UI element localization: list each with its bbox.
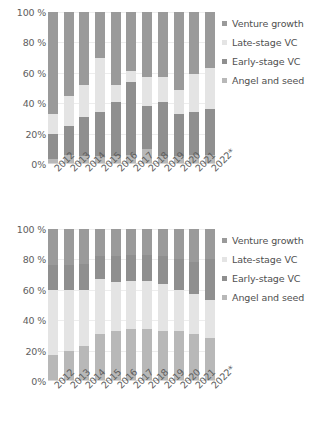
legend-label: Angel and seed	[232, 292, 304, 303]
bar-segment[interactable]	[142, 281, 152, 330]
bar-segment[interactable]	[189, 229, 199, 262]
bar-2017[interactable]	[126, 12, 136, 164]
legend-swatch-icon	[222, 21, 227, 26]
bar-segment[interactable]	[95, 12, 105, 58]
bar-2019[interactable]	[158, 229, 168, 381]
bar-segment[interactable]	[95, 256, 105, 279]
bar-segment[interactable]	[205, 259, 215, 300]
bar-2017[interactable]	[126, 229, 136, 381]
bar-segment[interactable]	[48, 265, 58, 289]
bar-segment[interactable]	[64, 290, 74, 351]
bar-2015[interactable]	[95, 12, 105, 164]
bar-segment[interactable]	[142, 106, 152, 149]
legend-label: Venture growth	[232, 18, 304, 29]
bar-segment[interactable]	[174, 259, 184, 289]
bar-segment[interactable]	[79, 12, 89, 85]
legend-item-late-stage-vc[interactable]: Late-stage VC	[222, 250, 316, 269]
bar-segment[interactable]	[95, 229, 105, 256]
bar-segment[interactable]	[174, 12, 184, 90]
bar-2014[interactable]	[79, 12, 89, 164]
bar-segment[interactable]	[126, 12, 136, 71]
bar-segment[interactable]	[158, 256, 168, 283]
bar-segment[interactable]	[189, 74, 199, 112]
legend-item-angel-and-seed[interactable]: Angel and seed	[222, 71, 316, 90]
bar-segment[interactable]	[174, 90, 184, 114]
bar-segment[interactable]	[64, 229, 74, 265]
bar-2021[interactable]	[189, 229, 199, 381]
bar-2012[interactable]	[48, 12, 58, 164]
bar-segment[interactable]	[79, 290, 89, 346]
bar-2020[interactable]	[174, 229, 184, 381]
bar-segment[interactable]	[142, 229, 152, 255]
bar-segment[interactable]	[142, 77, 152, 106]
legend-label: Angel and seed	[232, 75, 304, 86]
bar-2016[interactable]	[111, 229, 121, 381]
bar-segment[interactable]	[205, 300, 215, 338]
bar-segment[interactable]	[189, 262, 199, 294]
bar-segment[interactable]	[64, 265, 74, 289]
bar-segment[interactable]	[48, 290, 58, 355]
legend-item-late-stage-vc[interactable]: Late-stage VC	[222, 33, 316, 52]
bar-segment[interactable]	[79, 229, 89, 264]
legend-item-venture-growth[interactable]: Venture growth	[222, 231, 316, 250]
bar-2014[interactable]	[79, 229, 89, 381]
bar-segment[interactable]	[95, 279, 105, 334]
bar-2012[interactable]	[48, 229, 58, 381]
bar-segment[interactable]	[158, 12, 168, 77]
bar-segment[interactable]	[142, 12, 152, 77]
bar-segment[interactable]	[205, 68, 215, 109]
bar-segment[interactable]	[205, 12, 215, 68]
bar-segment[interactable]	[158, 102, 168, 157]
bar-segment[interactable]	[126, 82, 136, 155]
bar-segment[interactable]	[174, 290, 184, 331]
chart-page: 0%20%40 %60 %80 %100 % 20122013201420152…	[0, 0, 317, 434]
bar-segment[interactable]	[126, 229, 136, 255]
bar-segment[interactable]	[126, 281, 136, 330]
y-tick-label: 0%	[8, 159, 46, 170]
legend-swatch-icon	[222, 276, 227, 281]
bar-segment[interactable]	[48, 114, 58, 134]
bar-segment[interactable]	[79, 264, 89, 290]
bar-segment[interactable]	[48, 12, 58, 114]
bar-segment[interactable]	[48, 134, 58, 160]
bar-segment[interactable]	[111, 85, 121, 102]
bar-segment[interactable]	[79, 85, 89, 117]
bar-2022star[interactable]	[205, 12, 215, 164]
bar-segment[interactable]	[158, 229, 168, 256]
bar-segment[interactable]	[205, 229, 215, 259]
bar-segment[interactable]	[64, 96, 74, 126]
bar-2019[interactable]	[158, 12, 168, 164]
bar-2021[interactable]	[189, 12, 199, 164]
bar-2013[interactable]	[64, 12, 74, 164]
bar-segment[interactable]	[111, 12, 121, 85]
bar-segment[interactable]	[189, 294, 199, 334]
bar-segment[interactable]	[174, 229, 184, 259]
legend-item-early-stage-vc[interactable]: Early-stage VC	[222, 269, 316, 288]
bar-segment[interactable]	[205, 109, 215, 155]
legend-item-venture-growth[interactable]: Venture growth	[222, 14, 316, 33]
bar-segment[interactable]	[126, 71, 136, 82]
bar-segment[interactable]	[111, 229, 121, 256]
legend-item-angel-and-seed[interactable]: Angel and seed	[222, 288, 316, 307]
bar-segment[interactable]	[158, 284, 168, 331]
bar-segment[interactable]	[48, 229, 58, 265]
bar-segment[interactable]	[111, 256, 121, 282]
bar-2013[interactable]	[64, 229, 74, 381]
bar-2016[interactable]	[111, 12, 121, 164]
bar-segment[interactable]	[158, 77, 168, 101]
bar-segment[interactable]	[142, 255, 152, 281]
bar-2018[interactable]	[142, 229, 152, 381]
bar-segment[interactable]	[64, 12, 74, 96]
legend-item-early-stage-vc[interactable]: Early-stage VC	[222, 52, 316, 71]
bar-2015[interactable]	[95, 229, 105, 381]
legend-swatch-icon	[222, 257, 227, 262]
bar-2022star[interactable]	[205, 229, 215, 381]
bar-segment[interactable]	[111, 102, 121, 157]
bar-segment[interactable]	[189, 12, 199, 74]
bar-group-bottom	[48, 229, 215, 381]
bar-2020[interactable]	[174, 12, 184, 164]
bar-segment[interactable]	[95, 58, 105, 113]
bar-2018[interactable]	[142, 12, 152, 164]
bar-segment[interactable]	[126, 255, 136, 281]
bar-segment[interactable]	[111, 282, 121, 331]
